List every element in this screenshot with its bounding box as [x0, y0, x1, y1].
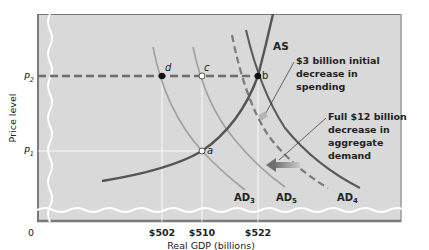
- annotation-full-line4: demand: [328, 150, 371, 161]
- annotation-full-line3: aggregate: [328, 137, 383, 148]
- origin-label: 0: [28, 227, 34, 238]
- y-tick-p1-sub: 1: [30, 150, 34, 158]
- ad5-label-sub: 5: [292, 197, 297, 205]
- y-tick-p2-sub: 2: [30, 76, 34, 84]
- y-axis-label: Price level: [7, 94, 18, 143]
- annotation-initial-line1: $3 billion initial: [296, 55, 380, 66]
- as-label: AS: [273, 40, 289, 52]
- ad3-label-sub: 3: [250, 197, 255, 205]
- ad3-label-main: AD: [234, 192, 250, 203]
- ad5-label-main: AD: [276, 192, 292, 203]
- annotation-initial-line2: decrease in: [296, 68, 358, 79]
- point-d: [159, 73, 165, 79]
- point-a: [199, 148, 205, 154]
- point-label-c: c: [204, 62, 210, 73]
- ad4-label-main: AD: [337, 192, 353, 203]
- point-label-d: d: [165, 62, 172, 73]
- x-tick-510: $510: [189, 227, 216, 238]
- point-label-b: b: [262, 70, 268, 81]
- y-tick-p2: P2: [24, 71, 34, 84]
- ad4-label-sub: 4: [353, 197, 358, 205]
- annotation-initial-line3: spending: [296, 81, 345, 92]
- point-c: [199, 73, 205, 79]
- y-tick-p1: P1: [24, 145, 34, 158]
- point-b: [255, 73, 261, 79]
- annotation-full-line1: Full $12 billion: [328, 111, 407, 122]
- x-axis-label: Real GDP (billions): [167, 240, 255, 250]
- x-tick-502: $502: [149, 227, 175, 238]
- shift-arrow-body: [274, 162, 300, 168]
- annotation-full-line2: decrease in: [328, 124, 390, 135]
- point-label-a: a: [207, 145, 213, 156]
- chart: d c b a AS AD3 AD5 AD4 $3 billion initia…: [0, 0, 429, 250]
- x-tick-522: $522: [245, 227, 271, 238]
